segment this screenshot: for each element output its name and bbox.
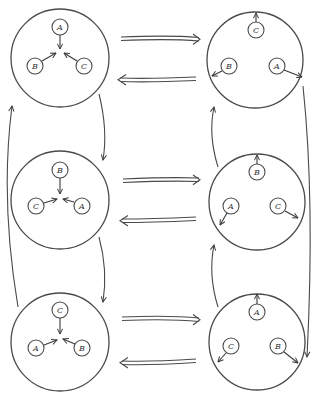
node-b: B	[52, 162, 68, 178]
arrow-icon	[284, 70, 302, 77]
node-a: A	[269, 58, 285, 74]
node-c: C	[52, 302, 68, 318]
node-b: B	[270, 338, 286, 354]
state-top-right: C B A	[207, 12, 303, 108]
transition-middle-left-to-right	[123, 175, 200, 185]
transition-bottom-left-to-top-left	[7, 106, 18, 307]
state-bottom-right: A C B	[209, 294, 305, 390]
node-label: B	[56, 166, 63, 175]
node-c: C	[270, 198, 286, 214]
node-c: C	[248, 22, 264, 38]
node-label: B	[274, 342, 281, 351]
double-arrow-head-icon	[120, 216, 128, 227]
state-middle-left: B C A	[11, 151, 109, 249]
node-label: C	[81, 62, 87, 71]
node-label: A	[78, 202, 85, 211]
double-arrow-head-icon	[118, 75, 126, 86]
node-label: C	[253, 26, 259, 35]
transition-middle-right-to-left	[120, 216, 196, 227]
transition-top-left-to-right	[121, 34, 200, 45]
node-label: C	[228, 342, 234, 351]
arrow-icon	[220, 213, 227, 225]
transition-top-right-to-bottom-right	[303, 86, 310, 357]
node-a: A	[223, 198, 239, 214]
double-arrow-head-icon	[193, 34, 200, 45]
node-label: C	[57, 306, 63, 315]
node-label: B	[31, 62, 38, 71]
node-label: A	[227, 202, 234, 211]
double-arrow-head-icon	[193, 175, 200, 185]
transition-bottom-right-to-middle-right	[212, 245, 218, 307]
arrow-icon	[63, 339, 75, 344]
arrow-icon	[218, 353, 226, 362]
node-label: C	[275, 202, 281, 211]
state-middle-right: B A C	[209, 154, 305, 250]
transition-bottom-left-to-right	[122, 315, 200, 326]
state-bottom-left: C A B	[11, 293, 109, 391]
node-label: B	[253, 168, 260, 177]
arrow-icon	[285, 211, 298, 218]
node-a: A	[249, 304, 265, 320]
arrow-icon	[42, 53, 56, 61]
node-c: C	[76, 58, 92, 74]
node-a: A	[74, 198, 90, 214]
double-arrow-head-icon	[120, 358, 128, 369]
transition-bottom-right-to-left	[120, 358, 196, 369]
transition-top-right-to-left	[118, 75, 196, 86]
node-b: B	[74, 340, 90, 356]
arrow-icon	[63, 199, 74, 202]
arrow-icon	[64, 53, 77, 61]
node-label: B	[78, 344, 85, 353]
node-c: C	[28, 198, 44, 214]
node-b: B	[249, 164, 265, 180]
node-b: B	[27, 58, 43, 74]
node-c: C	[223, 338, 239, 354]
node-label: A	[56, 23, 63, 32]
node-label: B	[225, 62, 232, 71]
transition-top-left-to-middle-left	[99, 94, 105, 160]
node-a: A	[52, 19, 68, 35]
arrow-icon	[284, 352, 298, 363]
node-b: B	[221, 58, 237, 74]
node-label: A	[273, 62, 280, 71]
arrow-icon	[212, 71, 222, 76]
node-label: A	[253, 308, 260, 317]
node-label: C	[33, 202, 39, 211]
state-top-left: A B C	[11, 9, 109, 107]
state-cycle-diagram: A B C C B A	[0, 0, 320, 399]
node-a: A	[28, 340, 44, 356]
transition-middle-left-to-bottom-left	[99, 237, 105, 302]
transition-middle-right-to-top-right	[212, 107, 218, 167]
node-label: A	[32, 344, 39, 353]
arrow-icon	[44, 199, 57, 203]
double-arrow-head-icon	[193, 315, 200, 326]
arrow-icon	[44, 340, 57, 345]
